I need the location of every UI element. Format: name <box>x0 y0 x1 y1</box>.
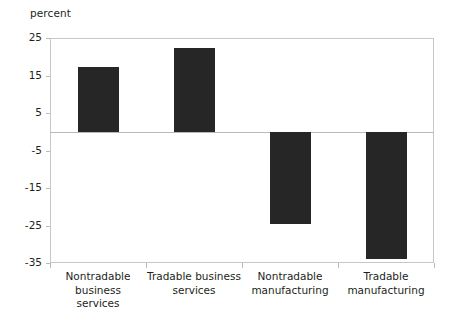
x-axis-tick <box>434 263 435 268</box>
y-tick-mark <box>46 151 50 152</box>
y-tick-mark <box>46 226 50 227</box>
y-tick-mark <box>46 38 50 39</box>
plot-area: 25155-5-15-25-35 <box>50 38 434 263</box>
y-tick-label: -35 <box>25 256 42 268</box>
bar <box>174 48 215 132</box>
y-axis-title: percent <box>30 7 71 19</box>
bar <box>366 132 407 260</box>
y-tick-label: 5 <box>35 106 42 118</box>
bar-chart: percent 25155-5-15-25-35 Nontradable bus… <box>0 0 456 314</box>
y-tick-label: -15 <box>25 181 42 193</box>
x-axis-category-label: Tradable manufacturing <box>338 270 434 297</box>
y-tick-label: -25 <box>25 219 42 231</box>
x-axis-tick <box>242 263 243 268</box>
x-axis-tick <box>146 263 147 268</box>
bar <box>78 67 119 132</box>
x-axis-tick <box>50 263 51 268</box>
x-axis-tick <box>338 263 339 268</box>
x-axis-category-label: Nontradable manufacturing <box>242 270 338 297</box>
y-tick-label: 15 <box>29 69 42 81</box>
x-axis-category-label: Tradable business services <box>146 270 242 297</box>
y-tick-label: -5 <box>32 144 42 156</box>
y-tick-mark <box>46 188 50 189</box>
x-axis-category-label: Nontradable business services <box>50 270 146 311</box>
y-tick-mark <box>46 76 50 77</box>
y-tick-label: 25 <box>29 31 42 43</box>
bar <box>270 132 311 224</box>
y-tick-mark <box>46 113 50 114</box>
